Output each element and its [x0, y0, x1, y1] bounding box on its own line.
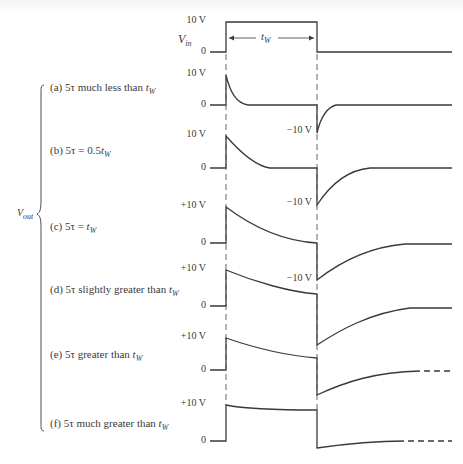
case-f-pos-label: +10 V: [166, 397, 206, 408]
case-d-pos-label: +10 V: [166, 262, 206, 273]
case-c-zero-label: 0: [166, 236, 206, 247]
waveform-f: [210, 405, 404, 448]
case-e-label: (e) 5τ greater than tW: [50, 348, 142, 363]
case-f-zero-label: 0: [166, 434, 206, 445]
case-a-neg-label: −10 V: [272, 124, 312, 135]
waveform-e: [210, 338, 420, 395]
tw-label: tW: [261, 30, 271, 45]
case-c-label: (c) 5τ = tW: [50, 220, 96, 235]
vin-waveform: [210, 22, 452, 52]
vin-label: Vin: [178, 32, 192, 48]
waveform-a: [210, 75, 452, 133]
case-e-pos-label: +10 V: [166, 330, 206, 341]
case-c-neg-label: −10 V: [272, 272, 312, 283]
case-d-zero-label: 0: [166, 299, 206, 310]
case-a-zero-label: 0: [166, 98, 206, 109]
waveform-c: [210, 207, 452, 280]
case-b-zero-label: 0: [166, 161, 206, 172]
vout-brace: [37, 85, 44, 431]
case-d-label: (d) 5τ slightly greater than tW: [50, 283, 179, 298]
case-a-label: (a) 5τ much less than tW: [50, 81, 156, 96]
case-f-label: (f) 5τ much greater than tW: [50, 417, 168, 432]
waveform-d: [210, 270, 452, 345]
case-c-pos-label: +10 V: [166, 199, 206, 210]
case-a-pos-label: 10 V: [166, 67, 206, 78]
case-b-neg-label: −10 V: [272, 196, 312, 207]
waveform-b: [210, 136, 452, 205]
case-e-zero-label: 0: [166, 363, 206, 374]
case-b-label: (b) 5τ = 0.5tW: [50, 144, 111, 159]
vout-label: Vout: [17, 207, 33, 221]
case-b-pos-label: 10 V: [166, 128, 206, 139]
vin-high-label: 10 V: [166, 14, 206, 25]
